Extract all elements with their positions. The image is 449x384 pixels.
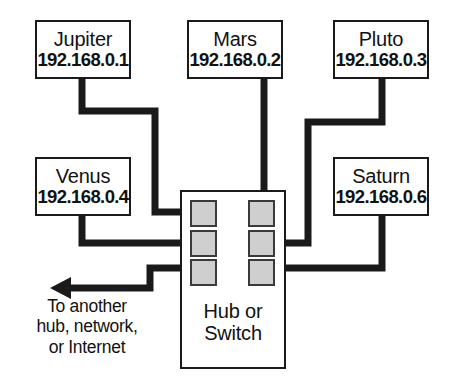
host-ip-address: 192.168.0.1 [37, 50, 128, 69]
hub-device-label: Hub or Switch [180, 300, 286, 345]
hub-port[interactable] [190, 230, 217, 257]
host-name: Mars [213, 29, 257, 50]
hub-port[interactable] [190, 259, 217, 286]
host-node-pluto[interactable]: Pluto 192.168.0.3 [333, 20, 429, 79]
wire-venus [82, 215, 183, 243]
hub-label-line-1: Hub or [180, 300, 286, 322]
host-name: Jupiter [54, 29, 113, 50]
host-node-mars[interactable]: Mars 192.168.0.2 [187, 20, 283, 79]
host-ip-address: 192.168.0.3 [335, 50, 426, 69]
uplink-caption: To another hub, network, or Internet [8, 296, 166, 357]
hub-port[interactable] [248, 200, 275, 227]
hub-label-line-2: Switch [180, 322, 286, 344]
host-name: Venus [56, 166, 111, 187]
host-ip-address: 192.168.0.6 [335, 187, 426, 206]
host-node-venus[interactable]: Venus 192.168.0.4 [35, 157, 131, 216]
uplink-caption-line-2: hub, network, [8, 316, 166, 336]
host-node-saturn[interactable]: Saturn 192.168.0.6 [333, 157, 429, 216]
network-diagram: Jupiter 192.168.0.1 Mars 192.168.0.2 Plu… [0, 0, 449, 384]
host-name: Saturn [352, 166, 410, 187]
uplink-caption-line-1: To another [8, 296, 166, 316]
host-node-jupiter[interactable]: Jupiter 192.168.0.1 [35, 20, 131, 79]
host-ip-address: 192.168.0.4 [37, 187, 128, 206]
host-name: Pluto [359, 29, 404, 50]
hub-port[interactable] [248, 259, 275, 286]
wire-uplink [62, 268, 183, 288]
hub-port[interactable] [190, 200, 217, 227]
host-ip-address: 192.168.0.2 [189, 50, 280, 69]
uplink-caption-line-3: or Internet [8, 337, 166, 357]
hub-port[interactable] [248, 230, 275, 257]
